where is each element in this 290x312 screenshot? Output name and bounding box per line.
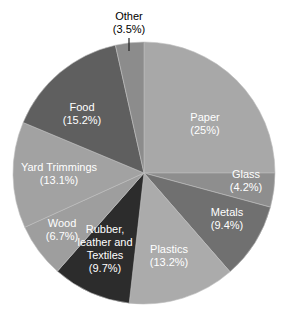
slice-label: Other(3.5%) bbox=[113, 10, 145, 35]
slice-label: Paper(25%) bbox=[190, 111, 220, 136]
pie-chart: Paper(25%)Glass(4.2%)Metals(9.4%)Plastic… bbox=[0, 0, 290, 312]
slice-label: Glass(4.2%) bbox=[230, 168, 262, 193]
slice-paper bbox=[144, 42, 275, 173]
slice-label: Plastics(13.2%) bbox=[150, 243, 189, 268]
slice-label: Metals(9.4%) bbox=[211, 206, 244, 231]
slice-label: Wood(6.7%) bbox=[46, 217, 78, 242]
